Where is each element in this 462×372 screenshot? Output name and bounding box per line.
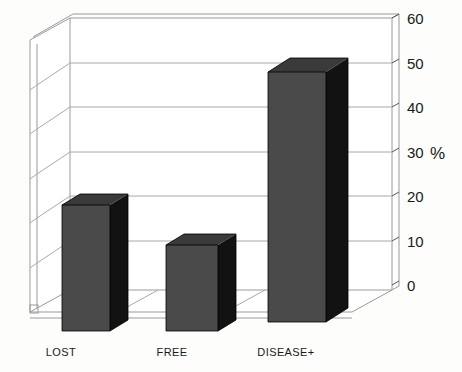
bar-free-side xyxy=(218,234,236,331)
axis-tick-labels: 60 50 40 30 20 10 0 xyxy=(407,10,424,294)
axis-label-10: 10 xyxy=(407,233,424,250)
bar-lost-front xyxy=(62,205,110,331)
axis-label-0: 0 xyxy=(407,277,415,294)
category-label-disease-positive: DISEASE+ xyxy=(257,346,314,358)
bar-chart-figure: 60 50 40 30 20 10 0 % LOST FREE DISEASE+ xyxy=(0,0,462,372)
bar-free xyxy=(166,234,236,331)
chart-canvas: 60 50 40 30 20 10 0 % LOST FREE DISEASE+ xyxy=(0,0,462,372)
bar-free-front xyxy=(166,245,218,331)
axis-label-20: 20 xyxy=(407,188,424,205)
y-axis-unit-label: % xyxy=(430,144,445,163)
category-label-free: FREE xyxy=(157,346,188,358)
axis-label-40: 40 xyxy=(407,99,424,116)
tick-30 xyxy=(392,148,399,152)
category-labels: LOST FREE DISEASE+ xyxy=(46,346,315,358)
bar-disease-positive xyxy=(268,58,348,322)
tick-20 xyxy=(392,192,399,196)
tick-50 xyxy=(392,59,399,63)
tick-0 xyxy=(392,281,399,285)
axis-tick-marks xyxy=(392,14,399,285)
axis-label-30: 30 xyxy=(407,144,424,161)
axis-label-50: 50 xyxy=(407,55,424,72)
axis-label-60: 60 xyxy=(407,10,424,27)
bar-lost-side xyxy=(110,194,128,331)
tick-10 xyxy=(392,237,399,241)
right-axis-bottom-cap xyxy=(392,286,399,290)
tick-40 xyxy=(392,103,399,107)
tick-60 xyxy=(392,14,399,18)
bar-disease-side xyxy=(326,58,348,322)
bar-lost xyxy=(62,194,128,331)
category-label-lost: LOST xyxy=(46,346,76,358)
bar-disease-front xyxy=(268,72,326,322)
